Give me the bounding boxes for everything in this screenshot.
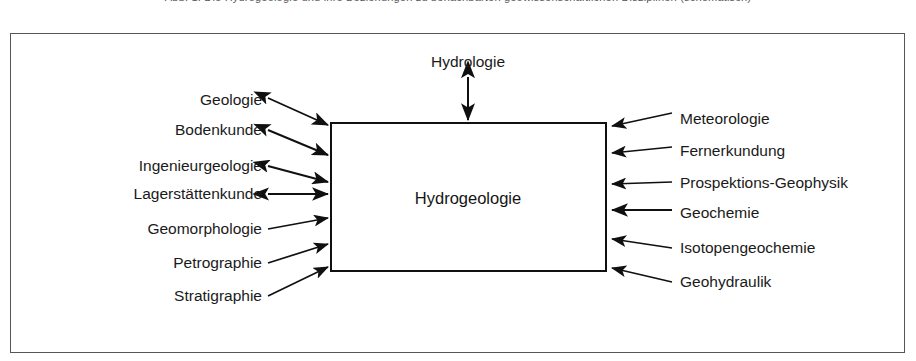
node-label-geohydraulik: Geohydraulik <box>680 274 771 290</box>
node-label-stratigraphie: Stratigraphie <box>174 288 262 304</box>
arrow-prospektions-geophysik <box>612 182 672 184</box>
node-label-geologie: Geologie <box>200 92 262 108</box>
arrow-fernerkundung <box>612 147 672 153</box>
node-label-isotopengeochemie: Isotopengeochemie <box>680 240 815 256</box>
arrow-geologie <box>268 98 328 125</box>
node-label-meteorologie: Meteorologie <box>680 111 770 127</box>
node-label-ingenieurgeologie: Ingenieurgeologie <box>139 158 262 174</box>
figure-page: Abb. 1: Die Hydrogeologie und ihre Bezie… <box>0 0 916 361</box>
node-label-geomorphologie: Geomorphologie <box>147 221 262 237</box>
arrow-petrographie <box>268 244 328 263</box>
node-label-lagerstaettenkunde: Lagerstättenkunde <box>134 186 262 202</box>
arrow-geohydraulik <box>612 268 672 282</box>
arrow-ingenieurgeologie <box>268 166 328 182</box>
arrow-meteorologie <box>612 113 672 126</box>
node-label-bodenkunde: Bodenkunde <box>175 122 262 138</box>
node-label-prospektions-geophysik: Prospektions-Geophysik <box>680 175 848 191</box>
node-label-petrographie: Petrographie <box>173 255 262 271</box>
node-label-fernerkundung: Fernerkundung <box>680 143 785 159</box>
central-node-label: Hydrogeologie <box>415 189 521 208</box>
arrow-bodenkunde <box>268 130 328 155</box>
node-label-geochemie: Geochemie <box>680 205 759 221</box>
node-label-hydrologie: Hydrologie <box>431 54 505 70</box>
arrow-stratigraphie <box>268 267 328 296</box>
arrow-geomorphologie <box>268 218 328 229</box>
arrow-isotopengeochemie <box>612 239 672 248</box>
